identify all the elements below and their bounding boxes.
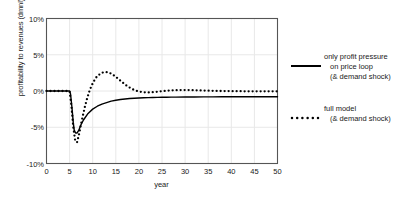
series-dot — [77, 137, 79, 139]
series-dot — [132, 88, 134, 90]
series-dot — [247, 90, 249, 92]
series-dot — [88, 90, 90, 92]
series-dot — [98, 73, 100, 75]
series-dot — [79, 129, 81, 131]
series-dot — [227, 90, 229, 92]
x-tick-label: 15 — [104, 167, 128, 176]
series-dot — [90, 87, 92, 89]
series-dot — [125, 84, 127, 86]
x-axis-tick-labels: 05101520253035404550 — [0, 167, 408, 181]
legend-label-line-1: full model — [324, 104, 356, 113]
chart-legend: only profit pressureon price loop(& dema… — [290, 52, 408, 144]
legend-label-line-2: (& demand shock) — [324, 114, 408, 124]
series-dot — [179, 89, 181, 91]
series-dot — [144, 91, 146, 93]
series-dot — [109, 72, 111, 74]
series-dot — [76, 141, 78, 143]
x-tick-label: 5 — [58, 167, 82, 176]
series-dot — [136, 90, 138, 92]
series-dot — [231, 90, 233, 92]
series-dot — [191, 89, 193, 91]
series-dot — [187, 89, 189, 91]
legend-dotted-line-icon — [290, 108, 322, 116]
series-dot — [219, 90, 221, 92]
legend-label: only profit pressureon price loop(& dema… — [324, 52, 408, 82]
series-dot — [84, 106, 86, 108]
series-dot — [106, 71, 108, 73]
series-dot — [243, 90, 245, 92]
series-dot — [102, 71, 104, 73]
x-tick-label: 30 — [173, 167, 197, 176]
series-dot — [80, 121, 82, 123]
series-dot — [211, 90, 213, 92]
series-dot — [119, 79, 121, 81]
series-dot — [73, 134, 75, 136]
series-dot — [74, 138, 76, 140]
series-dot — [171, 89, 173, 91]
legend-dot — [306, 117, 309, 120]
legend-dot — [296, 117, 299, 120]
series-dot — [223, 90, 225, 92]
series-dot — [79, 125, 81, 127]
series-dot — [61, 90, 63, 92]
series-dot — [152, 91, 154, 93]
series-dot — [160, 90, 162, 92]
series-dot — [86, 98, 88, 100]
legend-dot — [312, 117, 315, 120]
series-dot — [71, 119, 73, 121]
series-dot — [73, 131, 75, 133]
series-dot — [49, 90, 51, 92]
series-dot — [140, 91, 142, 93]
series-dot — [251, 90, 253, 92]
grid-lines — [47, 19, 278, 164]
legend-entry: full model(& demand shock) — [290, 104, 408, 124]
x-axis-title: year — [46, 180, 277, 189]
legend-label-line-3: (& demand shock) — [324, 72, 408, 82]
x-tick-label: 50 — [266, 167, 290, 176]
series-dot — [113, 74, 115, 76]
series-dot — [122, 82, 124, 84]
series-dot — [259, 90, 261, 92]
series-dot — [164, 90, 166, 92]
series-dot — [87, 94, 89, 96]
series-dot — [70, 103, 72, 105]
legend-label-line-2: on price loop — [324, 62, 408, 72]
series-dot — [215, 90, 217, 92]
series-dot — [65, 90, 67, 92]
series-dot — [95, 76, 97, 78]
series-dot — [235, 90, 237, 92]
x-tick-label: 10 — [81, 167, 105, 176]
legend-entry: only profit pressureon price loop(& dema… — [290, 52, 408, 82]
series-dot — [71, 111, 73, 113]
series-dot — [72, 123, 74, 125]
series-dot — [91, 83, 93, 85]
series-dot — [148, 91, 150, 93]
series-dot — [199, 89, 201, 91]
series-dot — [69, 95, 71, 97]
legend-dot — [317, 117, 320, 120]
series-dot — [82, 114, 84, 116]
series-dot — [72, 127, 74, 129]
legend-label-line-1: only profit pressure — [324, 52, 388, 61]
legend-dot — [301, 117, 304, 120]
series-dot — [69, 91, 71, 93]
series-dot — [93, 79, 95, 81]
series-dot — [183, 89, 185, 91]
series-dot — [271, 90, 273, 92]
series-dot — [239, 90, 241, 92]
legend-dot — [291, 117, 294, 120]
series-dot — [81, 117, 83, 119]
series-dot — [175, 89, 177, 91]
series-dot — [255, 90, 257, 92]
x-tick-label: 40 — [219, 167, 243, 176]
series-dot — [267, 90, 269, 92]
legend-solid-line-icon — [290, 56, 322, 64]
series-dot — [116, 77, 118, 79]
series-dot — [45, 90, 47, 92]
series-dot — [263, 90, 265, 92]
series-dot — [275, 90, 277, 92]
series-dot — [53, 90, 55, 92]
legend-label: full model(& demand shock) — [324, 104, 408, 124]
series-dot — [85, 102, 87, 104]
x-tick-label: 35 — [196, 167, 220, 176]
